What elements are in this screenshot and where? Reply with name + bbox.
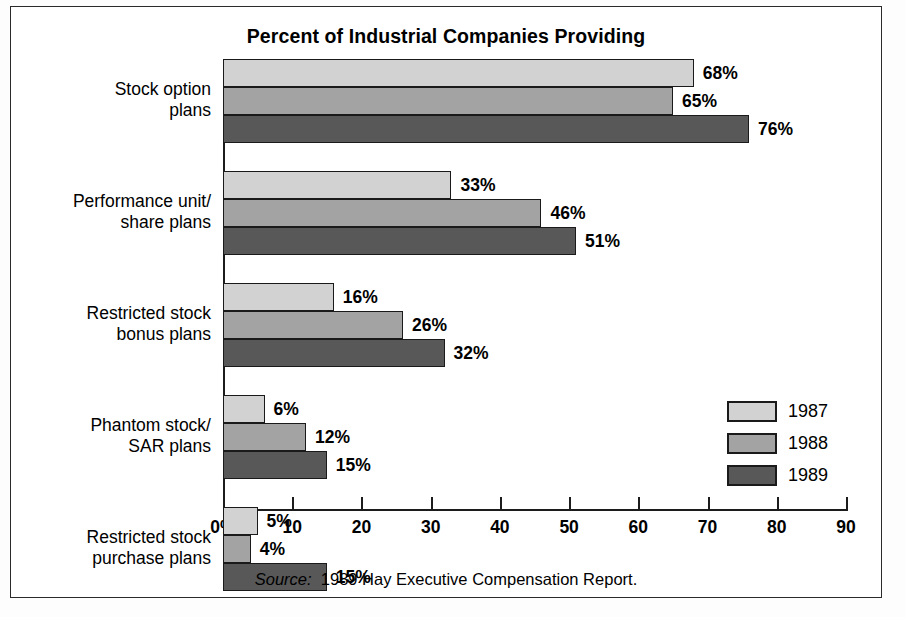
bar-1987-group-3: [223, 283, 334, 311]
bar-value-label-1987-group-4: 6%: [274, 395, 299, 423]
bar-1987-group-1: [223, 59, 694, 87]
x-tick-10: [292, 497, 294, 511]
x-tick-label-40: 40: [490, 517, 509, 538]
x-tick-40: [500, 497, 502, 511]
x-tick-20: [361, 497, 363, 511]
chart-title: Percent of Industrial Companies Providin…: [11, 25, 881, 48]
bar-1988-group-4: [223, 423, 306, 451]
chart-frame: Percent of Industrial Companies Providin…: [10, 6, 882, 598]
x-tick-80: [777, 497, 779, 511]
bar-1987-group-2: [223, 171, 451, 199]
x-tick-label-60: 60: [629, 517, 648, 538]
x-tick-label-70: 70: [698, 517, 717, 538]
bar-value-label-1989-group-4: 15%: [336, 451, 371, 479]
category-label-5: Restricted stock purchase plans: [11, 527, 211, 569]
x-tick-label-30: 30: [421, 517, 440, 538]
legend-item-1989: 1989: [727, 462, 828, 488]
source-text: 1989 Hay Executive Compensation Report.: [321, 570, 637, 588]
x-tick-label-80: 80: [767, 517, 786, 538]
legend-item-1987: 1987: [727, 398, 828, 424]
bar-value-label-1989-group-2: 51%: [585, 227, 620, 255]
bar-value-label-1988-group-4: 12%: [315, 423, 350, 451]
bar-value-label-1988-group-1: 65%: [682, 87, 717, 115]
legend-item-1988: 1988: [727, 430, 828, 456]
x-tick-50: [569, 497, 571, 511]
legend-label-1989: 1989: [788, 465, 828, 486]
x-tick-30: [431, 497, 433, 511]
legend: 1987 1988 1989: [727, 398, 828, 494]
x-tick-label-20: 20: [352, 517, 371, 538]
bar-1988-group-1: [223, 87, 673, 115]
bar-1988-group-2: [223, 199, 541, 227]
bar-value-label-1988-group-5: 4%: [260, 535, 285, 563]
source-spacer: [312, 570, 321, 588]
x-tick-label-90: 90: [836, 517, 855, 538]
category-label-2: Performance unit/ share plans: [11, 191, 211, 233]
bar-1989-group-3: [223, 339, 445, 367]
chart-page: Percent of Industrial Companies Providin…: [0, 0, 906, 617]
bar-value-label-1988-group-3: 26%: [412, 311, 447, 339]
bar-1988-group-5: [223, 535, 251, 563]
bar-1987-group-5: [223, 507, 258, 535]
source-prefix: Source:: [255, 570, 312, 588]
x-tick-label-50: 50: [559, 517, 578, 538]
bar-1989-group-2: [223, 227, 576, 255]
category-label-3: Restricted stock bonus plans: [11, 303, 211, 345]
bar-value-label-1987-group-3: 16%: [343, 283, 378, 311]
bar-value-label-1989-group-1: 76%: [758, 115, 793, 143]
source-note: Source: 1989 Hay Executive Compensation …: [11, 570, 881, 589]
bar-value-label-1987-group-1: 68%: [703, 59, 738, 87]
bar-value-label-1989-group-3: 32%: [454, 339, 489, 367]
legend-swatch-icon-1987: [727, 401, 777, 422]
x-tick-70: [708, 497, 710, 511]
bar-1989-group-1: [223, 115, 749, 143]
bar-1988-group-3: [223, 311, 403, 339]
bar-1987-group-4: [223, 395, 265, 423]
legend-label-1988: 1988: [788, 433, 828, 454]
legend-label-1987: 1987: [788, 401, 828, 422]
x-axis-line: [223, 509, 848, 511]
x-tick-60: [638, 497, 640, 511]
category-label-1: Stock option plans: [11, 79, 211, 121]
category-label-4: Phantom stock/ SAR plans: [11, 415, 211, 457]
bar-value-label-1987-group-2: 33%: [460, 171, 495, 199]
bar-value-label-1988-group-2: 46%: [550, 199, 585, 227]
x-tick-90: [846, 497, 848, 511]
bar-value-label-1987-group-5: 5%: [267, 507, 292, 535]
legend-swatch-icon-1988: [727, 433, 777, 454]
legend-swatch-icon-1989: [727, 465, 777, 486]
bar-1989-group-4: [223, 451, 327, 479]
